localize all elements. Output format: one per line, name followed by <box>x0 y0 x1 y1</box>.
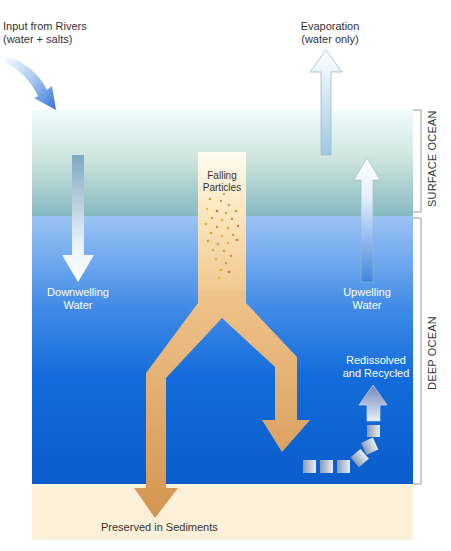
river-input-label: Input from Rivers (water + salts) <box>3 20 87 46</box>
river-input-label-line1: Input from Rivers <box>3 20 87 33</box>
evaporation-label-line1: Evaporation <box>300 20 360 33</box>
sediments-label-text: Preserved in Sediments <box>101 521 218 533</box>
sediment-layer <box>32 484 413 540</box>
evaporation-label: Evaporation (water only) <box>300 20 360 46</box>
surface-ocean-zone-label: SURFACE OCEAN <box>426 110 438 207</box>
diagram-canvas <box>0 0 451 551</box>
upwelling-label-line2: Water <box>330 299 404 312</box>
downwelling-label-line1: Downwelling <box>40 286 116 299</box>
recycled-label-line1: Redissolved <box>336 354 416 367</box>
upwelling-label-line1: Upwelling <box>330 286 404 299</box>
falling-particles-label-line2: Particles <box>196 182 248 194</box>
sediments-label: Preserved in Sediments <box>101 521 218 534</box>
deep-bracket <box>413 218 421 484</box>
river-input-arrow-icon <box>4 55 56 110</box>
evaporation-label-line2: (water only) <box>300 33 360 46</box>
deep-ocean-zone-label: DEEP OCEAN <box>426 316 438 390</box>
falling-particles-label: Falling Particles <box>196 170 248 194</box>
falling-particles-label-line1: Falling <box>196 170 248 182</box>
surface-bracket <box>413 110 421 212</box>
upwelling-label: Upwelling Water <box>330 286 404 312</box>
downwelling-label-line2: Water <box>40 299 116 312</box>
recycled-label-line2: and Recycled <box>336 367 416 380</box>
river-input-label-line2: (water + salts) <box>3 33 87 46</box>
downwelling-label: Downwelling Water <box>40 286 116 312</box>
recycled-label: Redissolved and Recycled <box>336 354 416 380</box>
